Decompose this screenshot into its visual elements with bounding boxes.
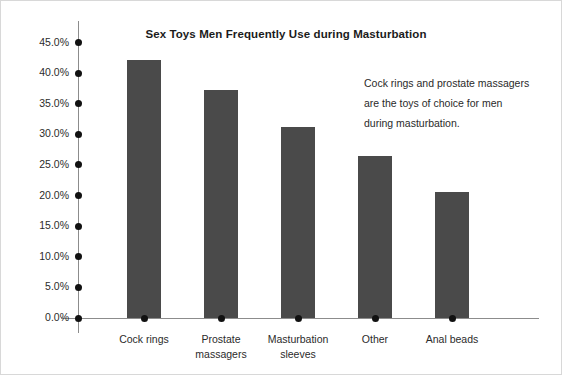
y-axis-tick-dot bbox=[75, 100, 82, 107]
y-axis-tick-label: 10.0% bbox=[39, 250, 69, 262]
y-axis-tick-dot bbox=[75, 223, 82, 230]
y-axis-tick-label: 5.0% bbox=[45, 280, 69, 292]
bar[interactable] bbox=[204, 90, 238, 318]
y-axis-tick-label: 45.0% bbox=[39, 36, 69, 48]
y-axis-tick-dot bbox=[75, 253, 82, 260]
bar[interactable] bbox=[358, 156, 392, 318]
y-axis-tick-label: 0.0% bbox=[45, 311, 69, 323]
bar-baseline-dot bbox=[218, 315, 225, 322]
y-axis-tick-label: 15.0% bbox=[39, 219, 69, 231]
y-axis-tick-dot bbox=[75, 284, 82, 291]
x-axis-category-label: Anal beads bbox=[397, 332, 507, 347]
category-label-line: sleeves bbox=[243, 347, 353, 362]
y-axis-tick-dot bbox=[75, 39, 82, 46]
bar-chart-figure: Sex Toys Men Frequently Use during Mastu… bbox=[0, 0, 562, 375]
y-axis-tick-dot bbox=[75, 192, 82, 199]
bar[interactable] bbox=[127, 60, 161, 318]
y-axis-tick-label: 40.0% bbox=[39, 66, 69, 78]
bar-baseline-dot bbox=[295, 315, 302, 322]
bar-baseline-dot bbox=[372, 315, 379, 322]
y-axis-tick-dot bbox=[75, 131, 82, 138]
y-axis-tick-dot bbox=[75, 70, 82, 77]
y-axis-tick-dot bbox=[75, 161, 82, 168]
y-axis-tick-label: 35.0% bbox=[39, 97, 69, 109]
y-axis-tick-label: 20.0% bbox=[39, 189, 69, 201]
y-axis-tick-dot bbox=[75, 315, 82, 322]
bar-baseline-dot bbox=[141, 315, 148, 322]
y-axis-tick-label: 25.0% bbox=[39, 158, 69, 170]
bar-baseline-dot bbox=[449, 315, 456, 322]
bar[interactable] bbox=[281, 127, 315, 318]
category-label-line: Anal beads bbox=[397, 332, 507, 347]
bar[interactable] bbox=[435, 192, 469, 318]
y-axis-tick-label: 30.0% bbox=[39, 127, 69, 139]
plot-area: 45.0%40.0%35.0%30.0%25.0%20.0%15.0%10.0%… bbox=[1, 1, 562, 375]
